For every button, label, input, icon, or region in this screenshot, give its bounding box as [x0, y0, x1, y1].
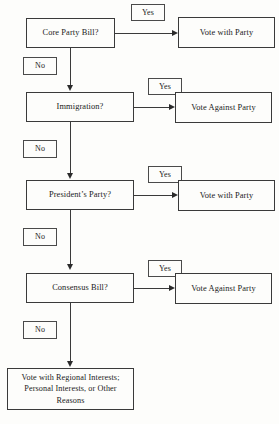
connector-yes-consensus-bill	[134, 288, 170, 289]
decision-label-core-party-bill: Core Party Bill?	[42, 28, 98, 38]
edge-label-text: Yes	[159, 83, 171, 91]
decision-label-presidents-party: President’s Party?	[49, 190, 111, 200]
decision-label-consensus-bill: Consensus Bill?	[52, 283, 108, 293]
connector-no-consensus-bill	[70, 303, 71, 362]
connector-yes-core-party-bill	[115, 33, 173, 34]
edge-label-text: No	[35, 326, 45, 334]
outcome-box-vote-with-party-1[interactable]: Vote with Party	[178, 17, 275, 48]
connector-no-presidents-party	[70, 210, 71, 265]
final-outcome-line-1: Vote with Regional Interests;	[21, 372, 119, 383]
edge-label-no-consensus-bill: No	[23, 321, 57, 339]
outcome-box-vote-against-party-2[interactable]: Vote Against Party	[175, 273, 272, 304]
edge-label-no-immigration: No	[23, 140, 57, 158]
edge-label-text: No	[35, 62, 45, 70]
edge-label-text: Yes	[159, 171, 171, 179]
connector-no-core-party-bill	[70, 48, 71, 86]
arrowhead-no-immigration	[67, 173, 73, 179]
decision-box-core-party-bill[interactable]: Core Party Bill?	[26, 18, 115, 48]
edge-label-text: No	[35, 233, 45, 241]
outcome-label-vote-against-party-1: Vote Against Party	[191, 103, 255, 113]
final-outcome-line-2: Personal Interests, or Other	[24, 383, 116, 394]
outcome-label-vote-with-party-2: Vote with Party	[200, 191, 253, 201]
decision-box-immigration[interactable]: Immigration?	[26, 92, 134, 122]
arrowhead-no-presidents-party	[67, 264, 73, 270]
edge-label-text: No	[35, 145, 45, 153]
final-outcome-box[interactable]: Vote with Regional Interests; Personal I…	[7, 368, 134, 410]
outcome-box-vote-against-party-1[interactable]: Vote Against Party	[175, 92, 272, 123]
connector-no-immigration	[70, 122, 71, 174]
arrowhead-no-core-party-bill	[67, 85, 73, 91]
edge-label-yes-core-party-bill: Yes	[131, 4, 165, 21]
edge-label-text: Yes	[142, 9, 154, 17]
edge-label-no-presidents-party: No	[23, 228, 57, 246]
decision-label-immigration: Immigration?	[57, 102, 104, 112]
outcome-label-vote-against-party-2: Vote Against Party	[191, 284, 255, 294]
connector-yes-immigration	[134, 107, 170, 108]
decision-box-consensus-bill[interactable]: Consensus Bill?	[26, 273, 134, 303]
edge-label-yes-presidents-party: Yes	[148, 166, 182, 183]
final-outcome-line-3: Reasons	[57, 395, 85, 406]
edge-label-no-core-party-bill: No	[23, 57, 57, 75]
edge-label-text: Yes	[159, 265, 171, 273]
connector-yes-presidents-party	[134, 195, 173, 196]
arrowhead-no-consensus-bill	[67, 361, 73, 367]
flowchart-diagram: Core Party Bill? Yes Vote with Party No …	[0, 0, 279, 424]
outcome-box-vote-with-party-2[interactable]: Vote with Party	[178, 180, 275, 211]
outcome-label-vote-with-party-1: Vote with Party	[200, 28, 253, 38]
decision-box-presidents-party[interactable]: President’s Party?	[26, 180, 134, 210]
